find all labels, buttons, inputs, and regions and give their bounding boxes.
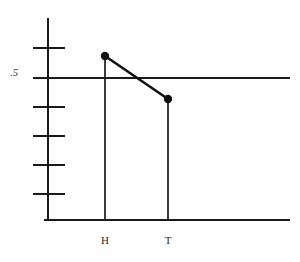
y-axis-tick-label-half: .5 — [10, 66, 19, 78]
data-point-t[interactable] — [164, 95, 172, 103]
x-axis-label-t: T — [165, 234, 172, 246]
chart-figure: .5 H T — [0, 0, 300, 262]
x-axis-label-h: H — [101, 234, 109, 246]
plot-area: .5 H T — [0, 0, 300, 262]
data-point-h[interactable] — [101, 52, 109, 60]
